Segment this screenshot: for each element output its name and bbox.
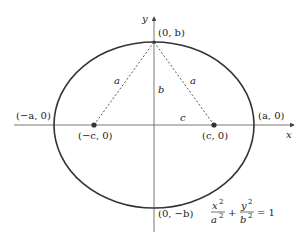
vertical-segment-label: b xyxy=(158,84,164,95)
svg-text:2: 2 xyxy=(219,198,223,206)
left-focus-label: (−c, 0) xyxy=(78,130,113,141)
x-axis-label: x xyxy=(286,129,292,140)
svg-text:x: x xyxy=(212,200,218,211)
svg-text:2: 2 xyxy=(248,212,252,220)
left-focus-point xyxy=(91,122,96,127)
y-axis-label: y xyxy=(141,13,148,24)
top-vertex-label: (0, b) xyxy=(158,27,185,38)
svg-text:y: y xyxy=(240,200,247,211)
svg-text:b: b xyxy=(240,214,246,225)
bottom-vertex-label: (0, −b) xyxy=(158,208,193,219)
svg-text:= 1: = 1 xyxy=(257,207,275,218)
left-segment-label: a xyxy=(114,75,120,86)
svg-text:a: a xyxy=(211,214,217,225)
svg-text:2: 2 xyxy=(219,212,223,220)
top-vertex-point xyxy=(153,41,156,44)
svg-text:2: 2 xyxy=(248,198,252,206)
right-focus-label: (c, 0) xyxy=(202,130,228,141)
left-vertex-label: (−a, 0) xyxy=(16,110,51,121)
right-vertex-label: (a, 0) xyxy=(258,110,285,121)
ellipse-equation: x 2 a 2 + y 2 b 2 = 1 xyxy=(211,198,275,225)
right-focus-point xyxy=(211,122,216,127)
svg-text:+: + xyxy=(228,207,236,218)
right-segment-label: a xyxy=(190,75,196,86)
horizontal-segment-label: c xyxy=(180,112,186,123)
ellipse-diagram: y x (0, b) (0, −b) (−a, 0) (a, 0) (−c, 0… xyxy=(0,0,304,242)
